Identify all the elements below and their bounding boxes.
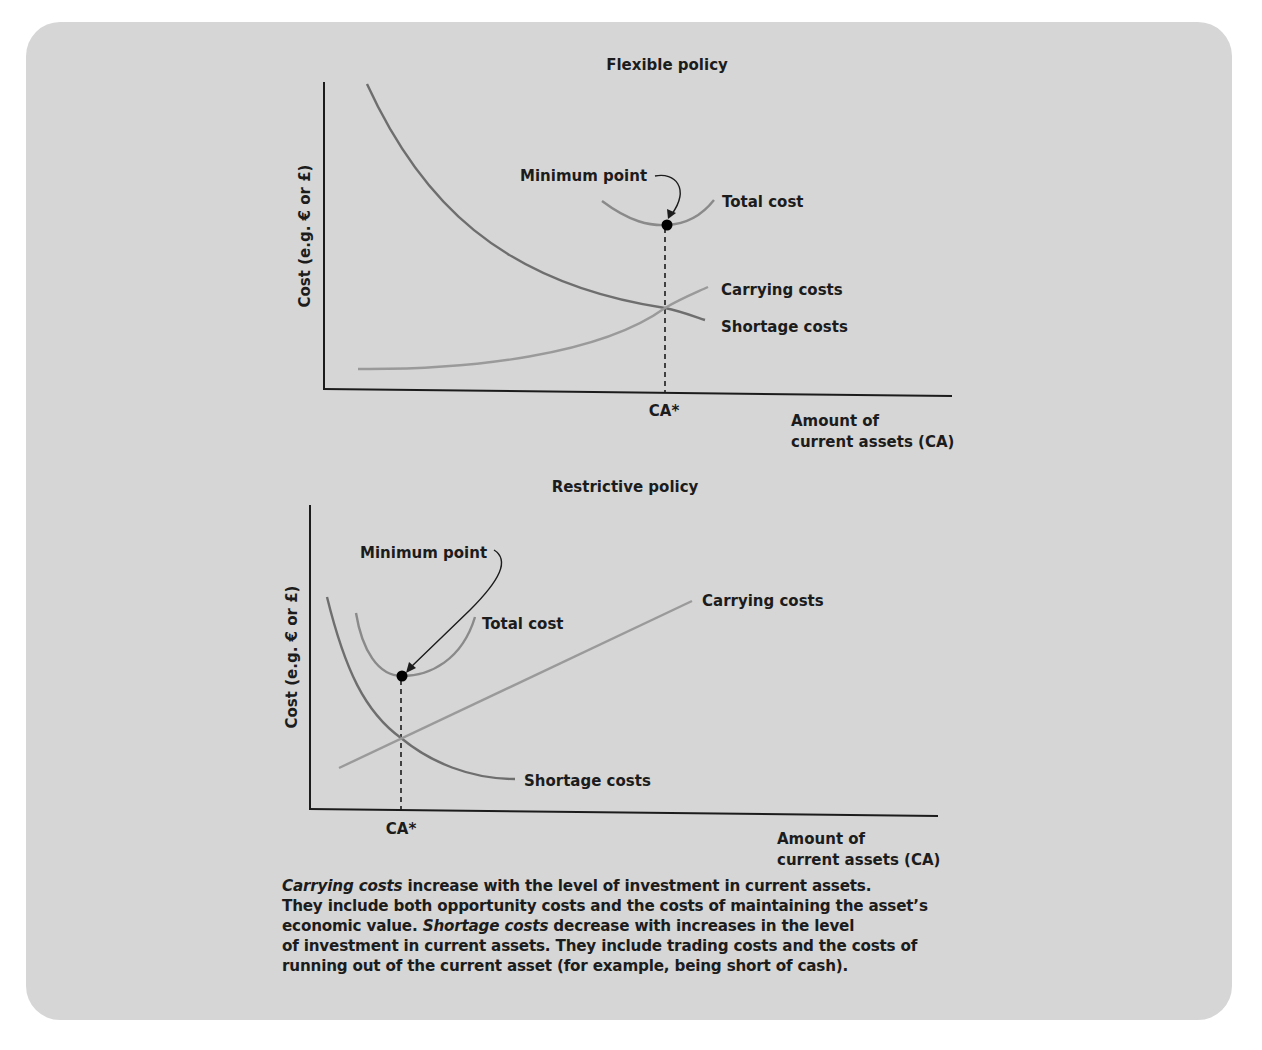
arrow-minimum-point <box>411 550 502 667</box>
minimum-point-marker <box>397 671 408 682</box>
x-axis-label-line1: Amount of <box>777 830 866 848</box>
caption-line: running out of the current asset (for ex… <box>282 956 1002 976</box>
series-carrying-costs <box>358 287 708 369</box>
figure-caption: Carrying costs increase with the level o… <box>282 876 1002 976</box>
caption-text: economic value. <box>282 917 423 935</box>
label-carrying-costs: Carrying costs <box>702 592 824 610</box>
caption-line: They include both opportunity costs and … <box>282 896 1002 916</box>
y-axis-label: Cost (e.g. € or £) <box>296 165 314 308</box>
x-axis <box>309 809 938 816</box>
minimum-point-marker <box>662 220 673 231</box>
x-tick-label: CA* <box>649 402 680 420</box>
x-axis <box>323 389 952 396</box>
caption-line: of investment in current assets. They in… <box>282 936 1002 956</box>
label-minimum-point: Minimum point <box>360 544 487 562</box>
caption-term: Carrying costs <box>282 877 402 895</box>
arrow-minimum-point <box>655 175 680 214</box>
y-axis-label: Cost (e.g. € or £) <box>283 586 301 729</box>
label-total-cost: Total cost <box>722 193 804 211</box>
caption-text: of investment in current assets. They in… <box>282 937 917 955</box>
series-shortage-costs <box>367 84 705 320</box>
chart-title: Restrictive policy <box>552 478 699 496</box>
caption-text: increase with the level of investment in… <box>402 877 871 895</box>
x-axis-label-line2: current assets (CA) <box>791 433 954 451</box>
label-carrying-costs: Carrying costs <box>721 281 843 299</box>
caption-term: Shortage costs <box>423 917 549 935</box>
x-tick-label: CA* <box>386 820 417 838</box>
x-axis-label-line1: Amount of <box>791 412 880 430</box>
caption-line: economic value. Shortage costs decrease … <box>282 916 1002 936</box>
label-shortage-costs: Shortage costs <box>721 318 848 336</box>
x-axis-label-line2: current assets (CA) <box>777 851 940 869</box>
chart-title: Flexible policy <box>606 56 728 74</box>
label-minimum-point: Minimum point <box>520 167 647 185</box>
caption-text: decrease with increases in the level <box>548 917 854 935</box>
caption-text: They include both opportunity costs and … <box>282 897 928 915</box>
label-shortage-costs: Shortage costs <box>524 772 651 790</box>
series-total-cost <box>602 200 714 225</box>
caption-text: running out of the current asset (for ex… <box>282 957 848 975</box>
chart-restrictive-policy: Restrictive policy Cost (e.g. € or £) Am… <box>283 478 940 869</box>
chart-flexible-policy: Flexible policy Cost (e.g. € or £) Amoun… <box>296 56 954 451</box>
label-total-cost: Total cost <box>482 615 564 633</box>
caption-line: Carrying costs increase with the level o… <box>282 876 1002 896</box>
